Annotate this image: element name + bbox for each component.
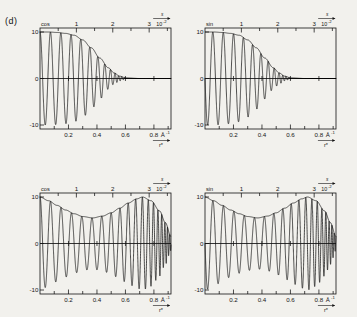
- y-axis-tick-label: 10: [197, 193, 204, 200]
- top-axis-symbol: s: [326, 176, 329, 182]
- plot-top-left: 123s10-20.20.40.60.8Å-1r*100-10cos: [32, 14, 182, 146]
- y-axis-tick-label: 0: [35, 240, 39, 247]
- top-axis-exponent: -2: [328, 19, 332, 24]
- top-axis-exponent: -2: [163, 19, 167, 24]
- top-axis-symbol: s: [161, 176, 164, 182]
- y-axis-tick-label: 10: [197, 28, 204, 35]
- y-axis-tick-label: -10: [30, 286, 40, 293]
- bottom-axis-tick-label: 0.4: [258, 296, 267, 303]
- panel-top-left: 123s10-20.20.40.60.8Å-1r*100-10cos: [32, 14, 182, 146]
- top-axis-arrow-icon: [168, 182, 171, 185]
- function-label: cos: [41, 186, 50, 192]
- top-axis-tick-label: 2: [276, 20, 280, 27]
- panel-top-right: 123s10-20.20.40.60.8Å-1r*100-10sin: [197, 14, 347, 146]
- bottom-axis-tick-label: 0.6: [121, 131, 130, 138]
- top-axis-tick-label: 3: [147, 185, 151, 192]
- figure-root: (d) 123s10-20.20.40.60.8Å-1r*100-10cos 1…: [0, 0, 357, 317]
- top-axis-tick-label: 1: [75, 185, 79, 192]
- bottom-axis-tick-label: 0.2: [229, 296, 238, 303]
- y-axis-tick-label: -10: [195, 286, 205, 293]
- top-axis-tick-label: 3: [312, 20, 316, 27]
- r-star-arrow-icon: [332, 139, 335, 142]
- panel-bottom-left: 123s10-20.20.40.60.8Å-1r*100-10cos: [32, 179, 182, 311]
- plot-bottom-left: 123s10-20.20.40.60.8Å-1r*100-10cos: [32, 179, 182, 311]
- bottom-axis-label: r*: [159, 142, 164, 148]
- y-axis-tick-label: 0: [35, 75, 39, 82]
- bottom-axis-label: r*: [159, 307, 164, 313]
- r-star-arrow-icon: [332, 304, 335, 307]
- top-axis-symbol: s: [326, 11, 329, 17]
- function-label: cos: [41, 21, 50, 27]
- bottom-axis-tick-label: 0.2: [229, 131, 238, 138]
- top-axis-exponent-group: 10-2: [156, 19, 167, 27]
- plot-top-right: 123s10-20.20.40.60.8Å-1r*100-10sin: [197, 14, 347, 146]
- function-label: sin: [206, 21, 213, 27]
- top-axis-exponent-group: 10-2: [321, 19, 332, 27]
- bottom-axis-tick-label: 0.8: [315, 131, 324, 138]
- top-axis-tick-label: 3: [147, 20, 151, 27]
- top-axis-arrow-icon: [333, 182, 336, 185]
- bottom-axis-label: r*: [324, 142, 329, 148]
- top-axis-arrow-icon: [333, 17, 336, 20]
- top-axis-tick-label: 2: [276, 185, 280, 192]
- r-star-arrow-icon: [167, 139, 170, 142]
- bottom-axis-tick-label: 0.6: [286, 296, 295, 303]
- bottom-axis-tick-label: 0.2: [64, 131, 73, 138]
- bottom-axis-tick-label: 0.4: [93, 131, 102, 138]
- bottom-axis-unit-exponent: -1: [166, 295, 170, 300]
- plot-bottom-right: 123s10-20.20.40.60.8Å-1r*100-10sin: [197, 179, 347, 311]
- top-axis-exponent-group: 10-2: [321, 184, 332, 192]
- top-axis-exponent: -2: [163, 184, 167, 189]
- top-axis-tick-label: 1: [75, 20, 79, 27]
- top-axis-exponent: -2: [328, 184, 332, 189]
- panel-tag: (d): [5, 16, 18, 26]
- bottom-axis-tick-label: 0.6: [286, 131, 295, 138]
- bottom-axis-tick-label: 0.8: [150, 131, 159, 138]
- top-axis-exponent-base: 10: [321, 186, 327, 192]
- bottom-axis-unit-exponent: -1: [331, 130, 335, 135]
- bottom-axis-unit-exponent: -1: [331, 295, 335, 300]
- top-axis-exponent-base: 10: [321, 21, 327, 27]
- top-axis-exponent-base: 10: [156, 21, 162, 27]
- y-axis-tick-label: 10: [32, 28, 39, 35]
- top-axis-arrow-icon: [168, 17, 171, 20]
- r-star-arrow-icon: [167, 304, 170, 307]
- top-axis-exponent-base: 10: [156, 186, 162, 192]
- top-axis-tick-label: 2: [111, 185, 115, 192]
- panel-bottom-right: 123s10-20.20.40.60.8Å-1r*100-10sin: [197, 179, 347, 311]
- top-axis-symbol: s: [161, 11, 164, 17]
- bottom-axis-label: r*: [324, 307, 329, 313]
- bottom-axis-tick-label: 0.4: [258, 131, 267, 138]
- y-axis-tick-label: 10: [32, 193, 39, 200]
- top-axis-tick-label: 3: [312, 185, 316, 192]
- y-axis-tick-label: -10: [195, 121, 205, 128]
- top-axis-tick-label: 1: [240, 185, 244, 192]
- y-axis-tick-label: -10: [30, 121, 40, 128]
- bottom-axis-tick-label: 0.8: [315, 296, 324, 303]
- y-axis-tick-label: 0: [200, 75, 204, 82]
- function-label: sin: [206, 186, 213, 192]
- y-axis-tick-label: 0: [200, 240, 204, 247]
- top-axis-exponent-group: 10-2: [156, 184, 167, 192]
- top-axis-tick-label: 1: [240, 20, 244, 27]
- bottom-axis-tick-label: 0.6: [121, 296, 130, 303]
- bottom-axis-tick-label: 0.8: [150, 296, 159, 303]
- bottom-axis-tick-label: 0.2: [64, 296, 73, 303]
- bottom-axis-tick-label: 0.4: [93, 296, 102, 303]
- top-axis-tick-label: 2: [111, 20, 115, 27]
- data-curve: [40, 197, 171, 289]
- bottom-axis-unit-exponent: -1: [166, 130, 170, 135]
